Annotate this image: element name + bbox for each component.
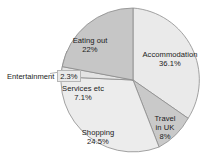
pie-chart: Accommodation 36.1% Eating out 22% Shopp… xyxy=(0,0,215,168)
entertainment-leader-line xyxy=(50,72,62,74)
pie-chart-svg xyxy=(0,0,215,168)
pie-chart-screenshot: Accommodation 36.1% Eating out 22% Shopp… xyxy=(0,0,215,168)
